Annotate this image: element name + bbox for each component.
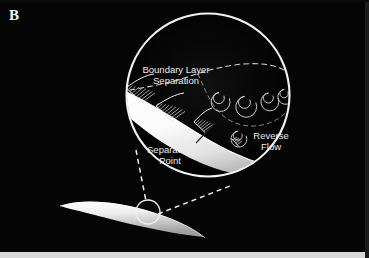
figure-panel-b: B Boundary Layer Separation Separation P…	[0, 0, 369, 258]
reverse-flow-line2: Flow	[261, 141, 281, 152]
reverse-flow-line1: Reverse	[253, 130, 288, 141]
separation-point-line1: Separation	[147, 144, 193, 155]
figure-bottom-border	[0, 252, 369, 258]
boundary-layer-separation-line2: Separation	[153, 75, 199, 86]
figure-right-border	[365, 0, 369, 258]
figure-top-border	[0, 0, 369, 2]
diagram-canvas: B Boundary Layer Separation Separation P…	[0, 0, 369, 258]
separation-point-line2: Point	[159, 155, 181, 166]
boundary-layer-separation-line1: Boundary Layer	[142, 64, 209, 75]
panel-label: B	[9, 7, 19, 23]
